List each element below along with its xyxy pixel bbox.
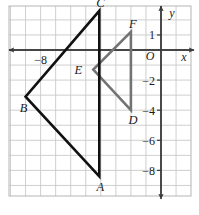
vertex-label-c: C — [96, 0, 105, 10]
vertex-label-e: E — [73, 63, 82, 77]
y-tick-label: −2 — [142, 74, 155, 88]
vertex-label-f: F — [128, 17, 137, 31]
vertex-label-d: D — [127, 113, 137, 127]
y-tick-label: −6 — [142, 134, 155, 148]
y-axis-label: y — [168, 6, 175, 20]
x-tick-label: −8 — [34, 53, 47, 67]
coordinate-plane-figure: 1−2−4−6−8 −8 O x y ABCDEF — [0, 0, 199, 215]
y-tick-label: 1 — [149, 28, 155, 42]
vertex-label-b: B — [20, 101, 28, 115]
plot-svg: 1−2−4−6−8 −8 O x y ABCDEF — [0, 0, 199, 215]
x-axis-label: x — [180, 50, 187, 64]
vertex-label-a: A — [95, 180, 104, 194]
x-axis-ticks: −8 — [34, 53, 47, 67]
origin-label: O — [146, 49, 155, 63]
y-tick-label: −8 — [142, 164, 155, 178]
y-tick-label: −4 — [142, 104, 155, 118]
